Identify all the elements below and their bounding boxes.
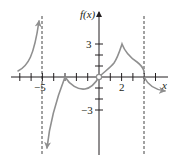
curve-middle-branch bbox=[65, 44, 144, 89]
x-tick-label-2: 2 bbox=[119, 82, 125, 93]
y-tick-label-3: 3 bbox=[86, 39, 92, 50]
curve-middle-down-branch bbox=[47, 77, 65, 148]
x-axis-label: x bbox=[162, 80, 167, 91]
function-graph bbox=[0, 0, 173, 161]
open-point-origin bbox=[96, 74, 101, 79]
curve-left-branch bbox=[18, 21, 39, 71]
x-tick-label-neg5: −5 bbox=[34, 82, 46, 93]
y-tick-label-neg3: −3 bbox=[81, 105, 93, 116]
y-axis-label: f(x) bbox=[80, 9, 95, 20]
